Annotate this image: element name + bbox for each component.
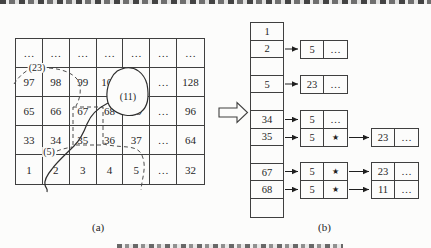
cropped-text-top [0, 0, 431, 4]
node-value: 5 [301, 111, 324, 128]
grid-cell: 98 [43, 68, 70, 97]
array-cell [251, 58, 283, 76]
list-node: 5 … [300, 40, 348, 59]
array-cell: 1 [251, 23, 283, 41]
ellipsis-icon: … [324, 76, 347, 93]
array-cell [251, 199, 283, 217]
array-cell: 35 [251, 129, 283, 147]
grid-cell: … [150, 97, 177, 126]
node-value: 5 [301, 129, 324, 146]
grid-cell: 2 [43, 155, 70, 184]
ellipsis-icon: … [395, 129, 418, 146]
grid-cell: 1 [16, 155, 43, 184]
array-cell [251, 146, 283, 164]
list-node: 23 … [300, 75, 348, 94]
node-value: 23 [372, 163, 395, 180]
cropped-caption-bottom [117, 244, 343, 248]
grid-cell: 36 [97, 126, 124, 155]
transform-arrow-icon [219, 103, 248, 123]
grid-cell: … [97, 39, 124, 68]
array-cell: 5 [251, 76, 283, 94]
list-node-level2: 11 … [371, 180, 419, 199]
grid-cell: 37 [123, 126, 150, 155]
grid-cell: 35 [70, 126, 97, 155]
grid-cell: … [177, 39, 204, 68]
list-node: 5 … [300, 110, 348, 129]
list-node: 5 ★ [300, 162, 348, 181]
grid-cell: … [123, 39, 150, 68]
list-node: 5 ★ [300, 180, 348, 199]
grid-cell: 5 [123, 155, 150, 184]
list-node: 5 ★ [300, 128, 348, 147]
list-node-level2: 23 … [371, 128, 419, 147]
grid-cell: 64 [177, 126, 204, 155]
region-label-5: (5) [42, 147, 56, 157]
grid-cell: 4 [97, 155, 124, 184]
subfigure-label-b: (b) [318, 221, 331, 233]
star-pointer-icon: ★ [324, 163, 347, 180]
region-label-11: (11) [120, 92, 136, 102]
bucket-array: 12534356768 [250, 22, 284, 218]
figure-canvas: …………………979899100101…1286566676869…963334… [0, 0, 431, 248]
grid-cell: 32 [177, 155, 204, 184]
star-pointer-icon: ★ [324, 129, 347, 146]
grid-cell: 66 [43, 97, 70, 126]
grid-cell: 67 [70, 97, 97, 126]
grid-cell: 3 [70, 155, 97, 184]
grid-cell: 99 [70, 68, 97, 97]
grid-cell: … [43, 39, 70, 68]
node-value: 5 [301, 181, 324, 198]
grid-cell: … [150, 126, 177, 155]
grid-directory-table: …………………979899100101…1286566676869…963334… [15, 38, 205, 185]
array-cell [251, 93, 283, 111]
array-cell: 34 [251, 111, 283, 129]
ellipsis-icon: … [324, 111, 347, 128]
array-cell: 2 [251, 41, 283, 59]
array-cell: 67 [251, 164, 283, 182]
star-pointer-icon: ★ [324, 181, 347, 198]
node-value: 23 [301, 76, 324, 93]
ellipsis-icon: … [395, 163, 418, 180]
list-node-level2: 23 … [371, 162, 419, 181]
grid-cell: … [150, 155, 177, 184]
node-value: 23 [372, 129, 395, 146]
region-label-23: (23) [28, 63, 47, 73]
grid-cell: 33 [16, 126, 43, 155]
grid-cell: 128 [177, 68, 204, 97]
grid-cell: 65 [16, 97, 43, 126]
grid-cell: 96 [177, 97, 204, 126]
grid-cell: … [150, 68, 177, 97]
subfigure-label-a: (a) [92, 221, 104, 233]
grid-cell: … [70, 39, 97, 68]
node-value: 5 [301, 41, 324, 58]
array-cell: 68 [251, 181, 283, 199]
ellipsis-icon: … [395, 181, 418, 198]
ellipsis-icon: … [324, 41, 347, 58]
grid-cell: … [150, 39, 177, 68]
node-value: 11 [372, 181, 395, 198]
node-value: 5 [301, 163, 324, 180]
